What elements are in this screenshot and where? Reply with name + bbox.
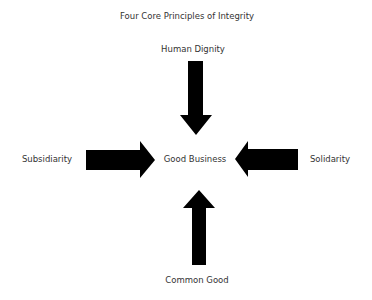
- arrow-left-icon: [235, 141, 298, 177]
- arrow-right-icon: [86, 141, 155, 178]
- arrows-layer: [0, 0, 372, 300]
- arrow-down-icon: [180, 61, 212, 135]
- arrow-up-icon: [183, 190, 215, 265]
